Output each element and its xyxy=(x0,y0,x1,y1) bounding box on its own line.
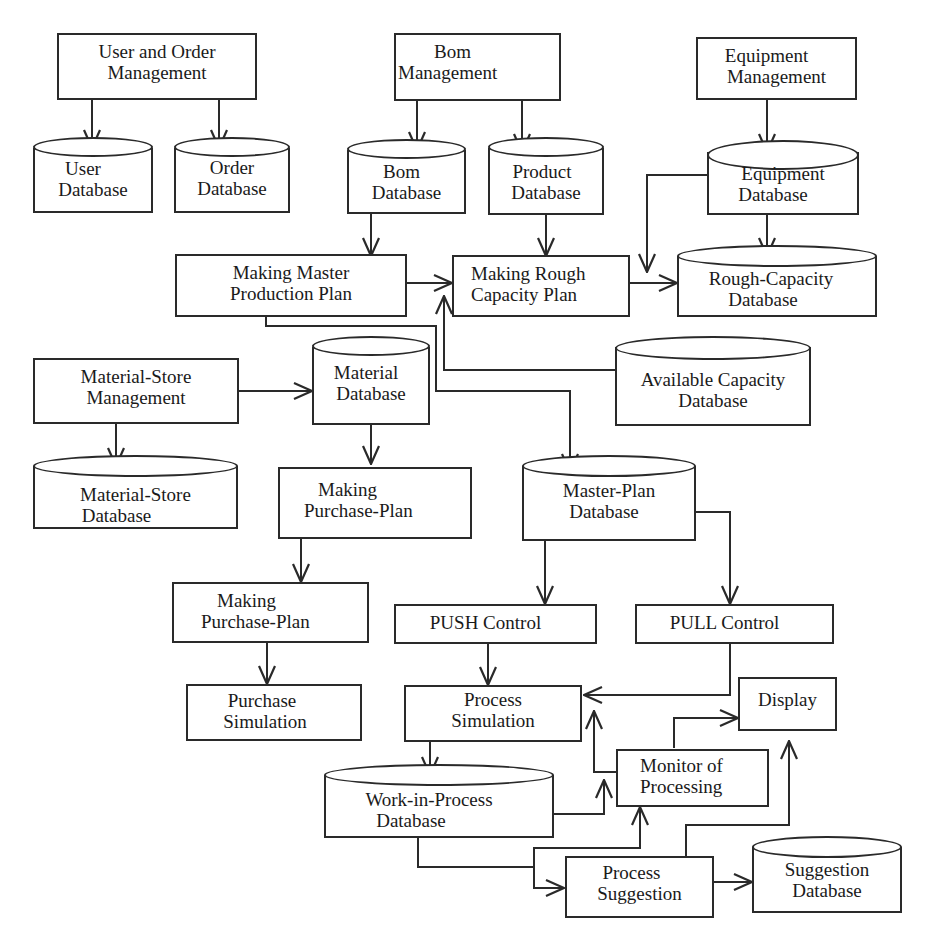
database-material-store: Material-Store Database xyxy=(33,466,238,529)
label: Purchase-Plan xyxy=(304,500,413,521)
label: Processing xyxy=(640,776,722,797)
label: PULL Control xyxy=(670,612,780,633)
label: Database xyxy=(197,178,267,199)
label: Management xyxy=(86,387,185,408)
process-making-purchase-plan-upper: Making Purchase-Plan xyxy=(278,467,472,539)
database-suggestion: Suggestion Database xyxy=(752,847,902,913)
label: Rough-Capacity xyxy=(709,268,834,289)
process-display: Display xyxy=(738,677,837,731)
cylinder-top xyxy=(752,836,902,858)
cylinder-top xyxy=(677,245,877,267)
edge-monitor-to-process-sim xyxy=(594,711,616,772)
database-rough-capacity: Rough-Capacity Database xyxy=(677,256,877,317)
label: Database xyxy=(372,182,442,203)
cylinder-top xyxy=(488,137,604,157)
label: Database xyxy=(728,289,798,310)
label: Management xyxy=(107,62,206,83)
process-bom-management: Bom Management xyxy=(394,33,561,101)
label: Suggestion xyxy=(597,883,681,904)
edge-pull-to-process-sim xyxy=(584,643,730,695)
label: Database xyxy=(511,182,581,203)
label: Making xyxy=(217,590,276,611)
label: Material-Store xyxy=(80,484,191,505)
cylinder-top xyxy=(324,764,554,786)
label: Database xyxy=(82,505,152,526)
label: Equipment xyxy=(725,45,808,66)
label: User xyxy=(65,158,101,179)
label: Database xyxy=(792,880,862,901)
label: Available Capacity xyxy=(641,369,786,390)
process-pull-control: PULL Control xyxy=(635,604,834,644)
process-process-simulation: Process Simulation xyxy=(404,685,582,742)
label: Material xyxy=(334,362,398,383)
cylinder-top xyxy=(347,139,466,159)
label: PUSH Control xyxy=(430,612,541,633)
process-making-purchase-plan-lower: Making Purchase-Plan xyxy=(172,582,369,643)
label: Simulation xyxy=(223,711,306,732)
database-bom: Bom Database xyxy=(347,150,466,214)
cylinder-top xyxy=(615,336,811,360)
database-product: Product Database xyxy=(488,148,604,215)
label: Material-Store xyxy=(81,366,192,387)
label: Management xyxy=(727,66,826,87)
process-equipment-management: Equipment Management xyxy=(696,37,857,100)
database-master-plan: Master-Plan Database xyxy=(522,466,696,541)
cylinder-top xyxy=(312,336,430,356)
label: Order xyxy=(210,157,254,178)
process-making-master-production-plan: Making Master Production Plan xyxy=(175,254,407,317)
process-purchase-simulation: Purchase Simulation xyxy=(186,684,362,741)
label: Master-Plan xyxy=(563,480,656,501)
database-available-capacity: Available Capacity Database xyxy=(615,347,811,426)
label: Production Plan xyxy=(230,283,352,304)
label: Database xyxy=(738,184,808,205)
label: Capacity Plan xyxy=(471,284,577,305)
label: Process xyxy=(602,862,660,883)
edge-wip-db-to-process-suggestion xyxy=(418,837,564,888)
label: Monitor of xyxy=(640,755,723,776)
label: Making xyxy=(318,479,377,500)
edge-master-plan-db-to-pull xyxy=(695,512,730,604)
label: Equipment xyxy=(741,163,824,184)
label: Database xyxy=(569,501,639,522)
process-user-and-order-management: User and Order Management xyxy=(57,33,257,100)
label: Display xyxy=(758,689,817,710)
label: Product xyxy=(512,161,571,182)
edge-wip-db-to-monitor xyxy=(553,780,604,814)
database-equipment: Equipment Database xyxy=(707,152,859,215)
label: Database xyxy=(58,179,128,200)
label: Process xyxy=(464,689,522,710)
label: Purchase xyxy=(228,690,297,711)
edge-monitor-to-display xyxy=(674,718,738,748)
process-push-control: PUSH Control xyxy=(394,604,597,644)
label: Bom xyxy=(383,161,420,182)
label: Making Master xyxy=(233,262,350,283)
cylinder-top xyxy=(33,455,238,477)
cylinder-top xyxy=(174,137,290,157)
database-material: Material Database xyxy=(312,347,430,425)
label: Purchase-Plan xyxy=(201,611,310,632)
label: Suggestion xyxy=(785,859,869,880)
process-material-store-management: Material-Store Management xyxy=(33,358,239,424)
process-process-suggestion: Process Suggestion xyxy=(565,856,714,918)
label: Making Rough xyxy=(471,263,586,284)
label: Database xyxy=(678,390,748,411)
cylinder-top xyxy=(33,137,153,157)
database-work-in-process: Work-in-Process Database xyxy=(324,775,554,838)
label: Management xyxy=(398,62,497,83)
label: Simulation xyxy=(451,710,534,731)
database-order: Order Database xyxy=(174,148,290,213)
label: Bom xyxy=(434,41,471,62)
process-making-rough-capacity-plan: Making Rough Capacity Plan xyxy=(452,255,630,317)
cylinder-top xyxy=(522,455,696,477)
process-monitor-of-processing: Monitor of Processing xyxy=(616,749,769,807)
label: Database xyxy=(376,810,446,831)
label: User and Order xyxy=(98,41,215,62)
diagram-canvas: User and Order Management Bom Management… xyxy=(0,0,926,943)
database-user: User Database xyxy=(33,148,153,213)
label: Database xyxy=(336,383,406,404)
label: Work-in-Process xyxy=(365,789,492,810)
